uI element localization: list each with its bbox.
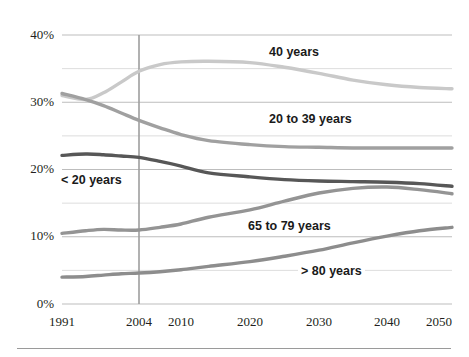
y-tick-0: 0% — [8, 296, 54, 312]
major-gridlines — [62, 35, 452, 304]
chart-figure: 40% 30% 20% 10% 0% 1991 2004 2010 2020 2… — [0, 0, 469, 357]
footer-rule — [17, 348, 451, 349]
series-line-20-to-39-years — [62, 94, 452, 149]
y-tick-10: 10% — [8, 228, 54, 244]
series-label-over-80-years: > 80 years — [298, 263, 365, 279]
x-tick-2040: 2040 — [357, 314, 417, 330]
series-label-20-to-39-years: 20 to 39 years — [266, 111, 355, 127]
x-tick-2050: 2050 — [409, 314, 469, 330]
y-tick-30: 30% — [8, 94, 54, 110]
x-tick-2010: 2010 — [151, 314, 211, 330]
x-tick-2020: 2020 — [220, 314, 280, 330]
x-tick-1991: 1991 — [32, 314, 92, 330]
series-label-40-years: 40 years — [266, 44, 322, 60]
series-line-80-years — [62, 227, 452, 277]
series-label-under-20-years: < 20 years — [58, 172, 125, 188]
y-tick-20: 20% — [8, 161, 54, 177]
series-line-40-years — [62, 61, 452, 99]
series-label-65-to-79-years: 65 to 79 years — [245, 218, 334, 234]
y-tick-40: 40% — [8, 27, 54, 43]
x-tick-2030: 2030 — [289, 314, 349, 330]
